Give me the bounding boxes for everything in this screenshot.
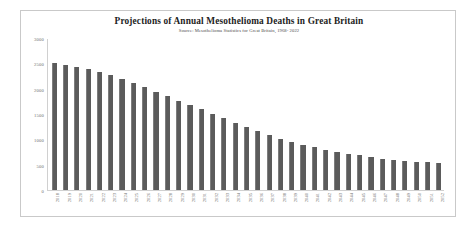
bar (402, 161, 407, 190)
chart-figure: Projections of Annual Mesothelioma Death… (0, 0, 471, 229)
x-tick-label: 2039 (293, 193, 298, 202)
bar (74, 67, 79, 190)
x-tick-label: 2029 (180, 193, 185, 202)
x-tick-label: 2031 (202, 193, 207, 202)
bar (221, 118, 226, 190)
bar (436, 163, 441, 190)
chart-title: Projections of Annual Mesothelioma Death… (21, 16, 457, 27)
x-tick-label: 2019 (67, 193, 72, 202)
bar (323, 150, 328, 190)
bar (142, 87, 147, 190)
x-tick-label: 2049 (406, 193, 411, 202)
title-block: Projections of Annual Mesothelioma Death… (21, 16, 457, 34)
bar (289, 142, 294, 190)
bar (176, 101, 181, 190)
x-tick-label: 2018 (55, 193, 60, 202)
x-tick-label: 2036 (259, 193, 264, 202)
x-tick-label: 2027 (157, 193, 162, 202)
bar (108, 75, 113, 190)
x-axis-line (47, 190, 444, 191)
x-tick-label: 2044 (349, 193, 354, 202)
bar (414, 162, 419, 190)
x-tick-label: 2030 (191, 193, 196, 202)
x-tick-label: 2020 (78, 193, 83, 202)
x-tick-label: 2052 (440, 193, 445, 202)
y-tick-label: 2000 (34, 87, 44, 92)
bar (63, 65, 68, 190)
bar (233, 123, 238, 190)
bar (199, 109, 204, 190)
x-tick-label: 2037 (270, 193, 275, 202)
x-tick-label: 2021 (89, 193, 94, 202)
bar (244, 127, 249, 190)
x-tick-label: 2050 (417, 193, 422, 202)
bar (187, 105, 192, 190)
x-tick-label: 2048 (395, 193, 400, 202)
x-tick-label: 2051 (429, 193, 434, 202)
x-tick-label: 2043 (338, 193, 343, 202)
bar (131, 83, 136, 190)
y-tick-label: 1000 (34, 138, 44, 143)
bar (425, 162, 430, 190)
bar (368, 157, 373, 190)
bar (153, 92, 158, 190)
x-tick-label: 2041 (315, 193, 320, 202)
bar (97, 72, 102, 190)
x-tick-label: 2046 (372, 193, 377, 202)
bar (312, 147, 317, 190)
bar (380, 159, 385, 190)
x-tick-label: 2047 (383, 193, 388, 202)
plot-area: 050010001500200025003000 201820192020202… (47, 39, 444, 191)
x-tick-label: 2045 (361, 193, 366, 202)
y-tick-label: 2500 (34, 62, 44, 67)
bar (119, 79, 124, 190)
x-tick-label: 2035 (248, 193, 253, 202)
x-tick-label: 2038 (282, 193, 287, 202)
bar (357, 155, 362, 190)
x-tick-label: 2022 (101, 193, 106, 202)
x-tick-label: 2025 (134, 193, 139, 202)
y-tick-label: 0 (42, 189, 45, 194)
x-tick-label: 2024 (123, 193, 128, 202)
bar (278, 139, 283, 190)
bar (52, 63, 57, 190)
bar-series (48, 39, 444, 190)
x-tick-label: 2032 (214, 193, 219, 202)
x-tick-label: 2034 (236, 193, 241, 202)
y-tick-label: 1500 (34, 113, 44, 118)
bar (300, 145, 305, 190)
x-tick-label: 2028 (168, 193, 173, 202)
y-tick-label: 3000 (34, 37, 44, 42)
x-tick-label: 2023 (112, 193, 117, 202)
bar (267, 135, 272, 190)
chart-subtitle: Source: Mesothelioma Statistics for Grea… (21, 27, 457, 34)
chart-frame: Projections of Annual Mesothelioma Death… (20, 10, 456, 217)
x-tick-label: 2040 (304, 193, 309, 202)
x-tick-label: 2042 (327, 193, 332, 202)
x-tick-label: 2033 (225, 193, 230, 202)
bar (210, 114, 215, 190)
bar (334, 152, 339, 190)
x-tick-label: 2026 (146, 193, 151, 202)
bar (391, 160, 396, 190)
y-tick-label: 500 (37, 163, 45, 168)
bar (346, 154, 351, 190)
bar (165, 96, 170, 190)
bar (255, 131, 260, 190)
bar (86, 69, 91, 190)
